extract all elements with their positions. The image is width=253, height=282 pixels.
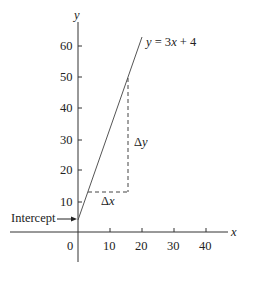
chart: y x 60 50 40 30 20 10 0 10 20 30 40 y = … <box>0 0 253 282</box>
y-axis-label: y <box>72 8 80 22</box>
y-tick-label-50: 50 <box>60 70 73 84</box>
x-tick-label-20: 20 <box>135 239 148 253</box>
x-tick-label-30: 30 <box>167 239 180 253</box>
x-ticks <box>110 228 206 232</box>
origin-label: 0 <box>67 239 73 253</box>
line-equation-label: y = 3x + 4 <box>144 35 197 49</box>
x-axis-label: x <box>230 225 237 239</box>
y-ticks <box>78 46 82 202</box>
y-tick-label-30: 30 <box>60 133 73 147</box>
x-tick-label-10: 10 <box>103 239 116 253</box>
x-tick-label-40: 40 <box>199 239 212 253</box>
arrowhead-icon <box>71 217 77 222</box>
y-tick-label-40: 40 <box>60 101 73 115</box>
y-tick-label-20: 20 <box>60 163 73 177</box>
delta-y-label: Δy <box>134 135 148 149</box>
series-line <box>78 37 142 220</box>
y-tick-label-60: 60 <box>60 39 73 53</box>
intercept-label: Intercept <box>11 211 56 225</box>
y-tick-label-10: 10 <box>60 195 73 209</box>
delta-x-label: Δx <box>101 194 115 208</box>
